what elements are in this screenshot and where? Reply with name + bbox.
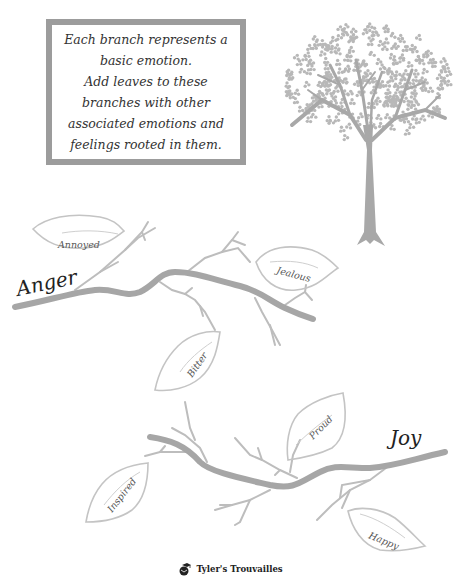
leaf-label-jealous: Jealous [274, 264, 313, 284]
leaf-inspired: Inspired [86, 463, 148, 522]
leaf-label-proud: Proud [306, 413, 335, 442]
graduation-globe-icon [178, 562, 192, 576]
anger-branch: Annoyed Jealous Bitter Anger [12, 215, 338, 390]
leaf-label-happy: Happy [366, 529, 401, 552]
illustration: Annoyed Jealous Bitter Anger [0, 0, 461, 584]
brand-name: Tyler's Trouvailles [196, 564, 282, 574]
leaf-label-bitter: Bitter [184, 349, 210, 380]
footer: Tyler's Trouvailles [0, 562, 461, 576]
leaf-annoyed: Annoyed [33, 215, 124, 250]
branch-label-joy: Joy [386, 426, 422, 450]
leaf-jealous: Jealous [256, 247, 338, 290]
joy-branch: Proud Inspired Happy Joy [86, 393, 445, 552]
tree-icon [285, 22, 453, 246]
leaf-bitter: Bitter [155, 332, 220, 391]
leaf-happy: Happy [348, 508, 425, 552]
leaf-label-annoyed: Annoyed [57, 239, 100, 250]
